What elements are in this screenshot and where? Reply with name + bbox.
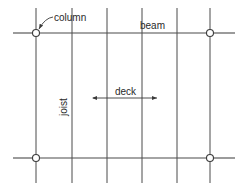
column-circle-icon xyxy=(207,30,214,37)
column-circle-icon xyxy=(207,155,214,162)
deck-label: deck xyxy=(115,86,137,97)
column-label: column xyxy=(54,12,86,23)
beam-label: beam xyxy=(140,20,165,31)
column-circle-icon xyxy=(33,30,40,37)
structural-framing-diagram: column beam joist deck xyxy=(0,0,244,192)
column-circle-icon xyxy=(33,155,40,162)
joist-label: joist xyxy=(58,98,69,117)
column-leader-arrow-icon xyxy=(39,17,53,29)
